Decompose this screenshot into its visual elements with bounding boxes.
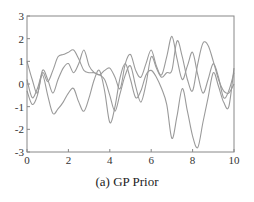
figure-caption: (a) GP Prior (0, 174, 254, 190)
y-tick-label: 1 (19, 55, 25, 67)
x-tick-label: 10 (229, 154, 241, 166)
series-line-3 (27, 64, 234, 148)
y-tick-label: -1 (15, 101, 24, 113)
y-tick-label: 0 (19, 78, 25, 90)
x-tick-label: 0 (24, 154, 30, 166)
series-line-2 (27, 41, 234, 112)
y-tick-label: 2 (19, 33, 25, 45)
plot-lines (27, 36, 234, 148)
y-tick-label: -3 (15, 146, 25, 158)
x-tick-label: 8 (190, 154, 196, 166)
series-line-1 (27, 36, 234, 98)
y-axis: -3-2-10123 (15, 10, 30, 158)
y-tick-label: 3 (19, 10, 25, 22)
x-tick-label: 6 (148, 154, 154, 166)
axes-frame (27, 16, 234, 152)
x-tick-label: 4 (107, 154, 113, 166)
y-tick-label: -2 (15, 123, 24, 135)
x-tick-label: 2 (66, 154, 72, 166)
line-chart: -3-2-10123 0246810 (0, 0, 254, 202)
